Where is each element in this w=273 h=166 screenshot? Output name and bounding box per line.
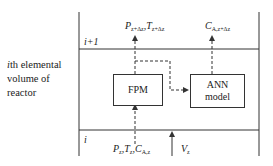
level-bottom-label: i bbox=[84, 134, 87, 146]
input-v-label: Vz bbox=[181, 143, 190, 158]
ann-model-box: ANNmodel bbox=[190, 74, 245, 108]
output-c-label: CA,z+Δz bbox=[205, 20, 230, 35]
fpm-box: FPM bbox=[113, 74, 163, 106]
level-top-label: i+1 bbox=[84, 36, 99, 48]
side-label: ith elemental volume of reactor bbox=[7, 58, 62, 100]
output-pt-label: Pz+Δz,Tz+Δz bbox=[125, 20, 164, 35]
input-ptc-label: Pz,Tz,CA,z bbox=[113, 143, 150, 158]
